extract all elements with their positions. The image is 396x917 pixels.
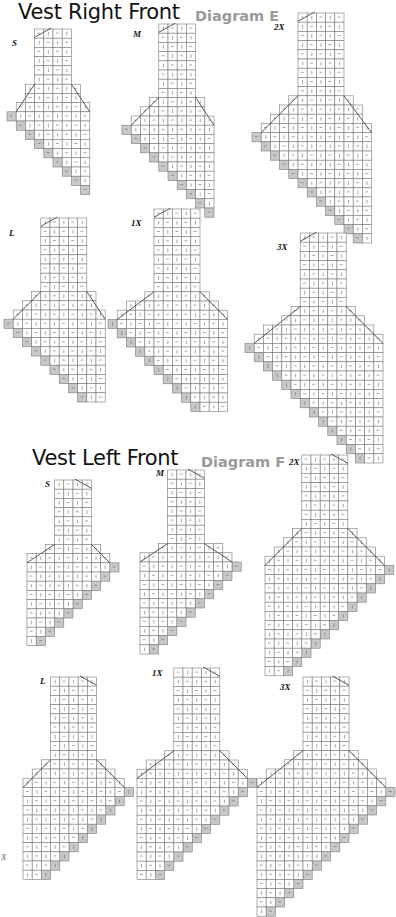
stitch-cell <box>23 787 32 796</box>
stitch-cell <box>78 751 87 760</box>
stitch-cell <box>211 705 220 714</box>
diagram-left-front-s: S <box>27 479 119 646</box>
stitch-cell <box>174 778 183 787</box>
stitch-cell <box>340 778 349 787</box>
stitch-cell <box>154 283 163 292</box>
stitch-cell <box>35 47 44 56</box>
stitch-cell <box>200 365 209 374</box>
stitch-cell <box>209 338 218 347</box>
stitch-cell <box>329 611 338 620</box>
stitch-cell <box>35 121 44 130</box>
stitch-cell <box>274 667 283 676</box>
stitch-cell <box>182 237 191 246</box>
stitch-cell <box>168 534 177 543</box>
stitch-cell <box>283 584 292 593</box>
stitch-cell <box>64 498 73 507</box>
stitch-cell <box>36 618 45 627</box>
stitch-cell <box>285 778 294 787</box>
stitch-cell <box>335 179 344 188</box>
decrease-cell <box>211 815 220 824</box>
stitch-cell <box>328 288 337 297</box>
stitch-cell <box>59 356 68 365</box>
decrease-cell <box>168 626 177 635</box>
stitch-cell <box>163 365 172 374</box>
stitch-cell <box>211 778 220 787</box>
stitch-cell <box>163 237 172 246</box>
decrease-cell <box>238 788 247 797</box>
stitch-cell <box>51 833 60 842</box>
stitch-cell <box>319 261 328 270</box>
stitch-cell <box>44 75 53 84</box>
stitch-cell <box>211 686 220 695</box>
stitch-cell <box>312 806 321 815</box>
stitch-cell <box>320 565 329 574</box>
stitch-cell <box>177 33 186 42</box>
stitch-cell <box>191 356 200 365</box>
decrease-cell <box>335 215 344 224</box>
stitch-cell <box>146 824 155 833</box>
stitch-cell <box>168 590 177 599</box>
stitch-cell <box>303 833 312 842</box>
stitch-cell <box>155 815 164 824</box>
stitch-cell <box>182 365 191 374</box>
stitch-cell <box>96 356 105 365</box>
stitch-cell <box>355 389 364 398</box>
stitch-cell <box>168 498 177 507</box>
stitch-cell <box>300 316 309 325</box>
decrease-cell <box>91 581 100 590</box>
stitch-cell <box>192 723 201 732</box>
stitch-cell <box>191 301 200 310</box>
stitch-cell <box>293 611 302 620</box>
decrease-cell <box>307 188 316 197</box>
stitch-cell <box>168 24 177 33</box>
decrease-cell <box>81 185 90 194</box>
stitch-cell <box>186 590 195 599</box>
stitch-cell <box>331 732 340 741</box>
decrease-cell <box>168 171 177 180</box>
stitch-cell <box>182 218 191 227</box>
stitch-cell <box>283 565 292 574</box>
stitch-cell <box>201 732 210 741</box>
stitch-cell <box>64 572 73 581</box>
stitch-cell <box>285 815 294 824</box>
stitch-cell <box>78 824 87 833</box>
stitch-cell <box>331 806 340 815</box>
stitch-cell <box>283 639 292 648</box>
stitch-cell <box>329 483 338 492</box>
stitch-cell <box>82 498 91 507</box>
stitch-cell <box>362 188 371 197</box>
stitch-cell <box>136 338 145 347</box>
stitch-cell <box>357 547 366 556</box>
stitch-cell <box>257 843 266 852</box>
stitch-cell <box>326 41 335 50</box>
stitch-cell <box>316 87 325 96</box>
stitch-cell <box>307 77 316 86</box>
stitch-cell <box>298 50 307 59</box>
stitch-cell <box>59 264 68 273</box>
stitch-cell <box>165 788 174 797</box>
stitch-cell <box>78 374 87 383</box>
stitch-cell <box>36 563 45 572</box>
decrease-cell <box>78 393 87 402</box>
stitch-cell <box>349 769 358 778</box>
stitch-cell <box>41 824 50 833</box>
stitch-cell <box>335 142 344 151</box>
stitch-cell <box>168 479 177 488</box>
stitch-cell <box>81 149 90 158</box>
stitch-cell <box>321 741 330 750</box>
stitch-cell <box>53 139 62 148</box>
stitch-cell <box>321 686 330 695</box>
stitch-cell <box>257 861 266 870</box>
stitch-cell <box>115 787 124 796</box>
stitch-cell <box>320 473 329 482</box>
stitch-cell <box>64 590 73 599</box>
stitch-cell <box>265 584 274 593</box>
size-label: 3X <box>279 682 292 692</box>
stitch-cell <box>50 255 59 264</box>
stitch-cell <box>23 843 32 852</box>
stitch-cell <box>320 529 329 538</box>
stitch-cell <box>186 134 195 143</box>
stitch-cell <box>172 283 181 292</box>
stitch-cell <box>78 319 87 328</box>
stitch-cell <box>211 723 220 732</box>
